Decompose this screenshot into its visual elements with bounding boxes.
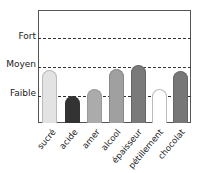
bar-epaisseur — [131, 65, 146, 123]
y-label-fort: Fort — [0, 31, 36, 41]
y-label-moyen: Moyen — [0, 59, 36, 69]
bar-chocolat — [173, 71, 188, 123]
x-label-amer: amer — [80, 127, 102, 150]
bar-alcool — [109, 69, 124, 123]
bar-amer — [87, 89, 102, 123]
bar-acide — [65, 96, 80, 123]
bar-petillement — [152, 89, 167, 123]
bar-sucre — [42, 70, 57, 123]
x-label-sucre: sucré — [35, 127, 57, 151]
gridline-fort — [38, 38, 191, 39]
gridline-moyen — [38, 67, 191, 68]
y-label-faible: Faible — [0, 88, 36, 98]
x-label-acide: acide — [57, 127, 79, 151]
